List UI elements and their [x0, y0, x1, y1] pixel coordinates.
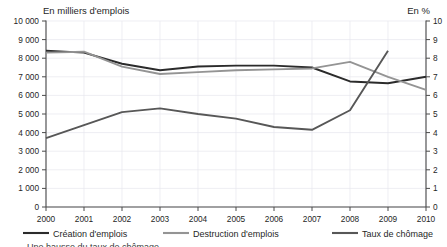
legend-label: Destruction d'emplois	[193, 229, 279, 239]
clipped-footnote: Une hausse du taux de chômage	[27, 242, 297, 247]
right-axis-tick-label: 4	[433, 128, 438, 138]
legend-label: Création d'emplois	[53, 229, 128, 239]
left-axis-tick-label: 10 000	[14, 16, 40, 26]
left-axis-title: En milliers d'emplois	[43, 5, 130, 16]
x-axis-tick-label: 2009	[379, 214, 398, 224]
right-axis-tick-label: 8	[433, 53, 438, 63]
x-axis-labels: 2000200120022003200420052006200720082009…	[37, 214, 436, 224]
legend-item-2: Taux de chômage	[332, 229, 433, 239]
x-axis-tick-label: 2002	[113, 214, 132, 224]
right-axis-tick-label: 1	[433, 183, 438, 193]
axis-titles: En milliers d'emploisEn %	[43, 5, 431, 16]
x-axis-tick-label: 2003	[151, 214, 170, 224]
right-axis-tick-label: 5	[433, 109, 438, 119]
left-axis-tick-label: 5 000	[18, 109, 39, 119]
x-axis-tick-label: 2006	[265, 214, 284, 224]
employment-unemployment-line-chart: 01 0002 0003 0004 0005 0006 0007 0008 00…	[0, 0, 447, 247]
x-axis-tick-label: 2007	[303, 214, 322, 224]
left-axis-tick-label: 9 000	[18, 35, 39, 45]
right-axis-tick-label: 7	[433, 72, 438, 82]
left-axis-tick-label: 4 000	[18, 128, 39, 138]
x-axis-tick-label: 2008	[341, 214, 360, 224]
left-axis-tick-label: 3 000	[18, 146, 39, 156]
right-axis-title: En %	[407, 5, 430, 16]
right-axis-tick-label: 10	[433, 16, 443, 26]
legend-item-1: Destruction d'emplois	[163, 229, 279, 239]
left-axis-tick-label: 1 000	[18, 183, 39, 193]
right-axis-tick-label: 0	[433, 202, 438, 212]
right-axis-tick-label: 2	[433, 165, 438, 175]
x-axis-tick-label: 2004	[189, 214, 208, 224]
right-axis-tick-label: 3	[433, 146, 438, 156]
legend-label: Taux de chômage	[362, 229, 433, 239]
left-axis-tick-label: 8 000	[18, 53, 39, 63]
left-axis-tick-label: 2 000	[18, 165, 39, 175]
right-axis-labels: 012345678910	[433, 16, 443, 212]
left-axis-tick-label: 6 000	[18, 90, 39, 100]
right-axis-tick-label: 9	[433, 35, 438, 45]
x-axis-tick-label: 2010	[417, 214, 436, 224]
legend-item-0: Création d'emplois	[23, 229, 128, 239]
grid-lines	[46, 21, 426, 207]
left-axis-labels: 01 0002 0003 0004 0005 0006 0007 0008 00…	[14, 16, 40, 212]
chart-legend: Création d'emploisDestruction d'emploisT…	[23, 229, 433, 239]
x-axis-tick-label: 2005	[227, 214, 246, 224]
x-axis-tick-label: 2001	[75, 214, 94, 224]
x-axis-tick-label: 2000	[37, 214, 56, 224]
left-axis-tick-label: 7 000	[18, 72, 39, 82]
right-axis-tick-label: 6	[433, 90, 438, 100]
left-axis-tick-label: 0	[34, 202, 39, 212]
chart-figure: 01 0002 0003 0004 0005 0006 0007 0008 00…	[0, 0, 447, 247]
